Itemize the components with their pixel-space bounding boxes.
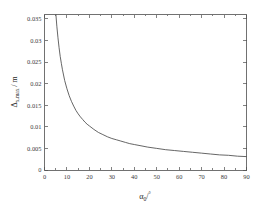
- chart-plot: 00.0050.010.0150.020.0250.030.035 010203…: [0, 0, 271, 208]
- y-tick-label: 0.03: [30, 37, 41, 44]
- y-tick-label: 0.015: [27, 102, 41, 109]
- x-tick-label: 90: [243, 173, 249, 180]
- x-tick-label: 30: [109, 173, 115, 180]
- y-tick-label: 0.025: [27, 58, 41, 65]
- x-tick-label: 40: [131, 173, 137, 180]
- x-tick-label: 80: [221, 173, 227, 180]
- x-tick-label: 0: [43, 173, 46, 180]
- x-tick-label: 10: [64, 173, 70, 180]
- x-tick-label: 70: [198, 173, 204, 180]
- y-tick-label: 0.01: [30, 123, 41, 130]
- x-tick-label: 20: [86, 173, 92, 180]
- x-tick-label: 60: [176, 173, 182, 180]
- y-tick-label: 0: [38, 166, 41, 173]
- y-tick-label: 0.035: [27, 15, 41, 22]
- y-tick-label: 0.02: [30, 80, 41, 87]
- figure-canvas: 00.0050.010.0150.020.0250.030.035 010203…: [0, 0, 271, 208]
- x-tick-label: 50: [154, 173, 160, 180]
- y-tick-label: 0.005: [27, 145, 41, 152]
